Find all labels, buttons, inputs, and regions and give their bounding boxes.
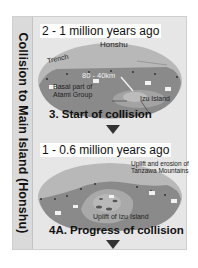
label-basal-2: Atami Group	[53, 91, 92, 99]
down-arrow-icon	[106, 125, 120, 134]
stage-1-caption: 3. Start of collision	[49, 108, 152, 120]
label-basal-1: Basal part of	[53, 83, 92, 91]
stage-2-caption: 4A. Progress of collision	[49, 224, 184, 236]
label-uplift-tanzawa-1: Uplift and erosion of	[131, 160, 189, 167]
side-title-strip: Collision to Main Island (Honshu)	[13, 17, 33, 249]
stage-1-period: 2 - 1 million years ago	[40, 24, 161, 38]
label-uplift-tanzawa-2: Tanzawa Mountains	[131, 167, 188, 174]
side-title: Collision to Main Island (Honshu)	[16, 32, 30, 233]
label-uplift-izu: Uplift of Izu Island	[93, 213, 149, 221]
label-distance: 80 - 40km	[82, 72, 115, 80]
label-honshu: Honshu	[100, 41, 128, 49]
label-izu-island: Izu Island	[140, 95, 170, 103]
down-arrow-icon	[106, 240, 120, 249]
stage-2-period: 1 - 0.6 million years ago	[40, 143, 171, 157]
diagram-panel: Collision to Main Island (Honshu) 2 - 1 …	[12, 16, 187, 250]
